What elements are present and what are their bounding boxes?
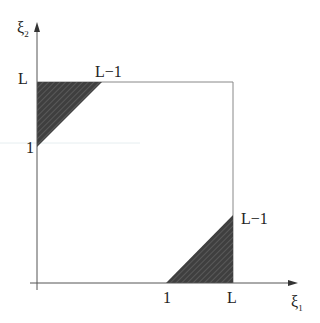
right-region-label: L−1	[241, 210, 268, 227]
x-axis-label: ξ1	[291, 293, 303, 313]
x-axis-arrow-icon	[288, 280, 298, 286]
x-tick-L: L	[227, 289, 237, 306]
lower-right-triangle-region	[166, 215, 233, 283]
y-tick-1: 1	[26, 139, 34, 156]
top-region-label: L−1	[95, 63, 122, 80]
upper-left-triangle-region	[37, 82, 102, 147]
y-tick-L: L	[18, 70, 28, 87]
y-axis-arrow-icon	[34, 22, 40, 32]
x-tick-1: 1	[163, 289, 171, 306]
region-diagram: ξ2 ξ1 L 1 1 L L−1 L−1	[0, 0, 320, 323]
y-axis-label: ξ2	[17, 19, 29, 39]
